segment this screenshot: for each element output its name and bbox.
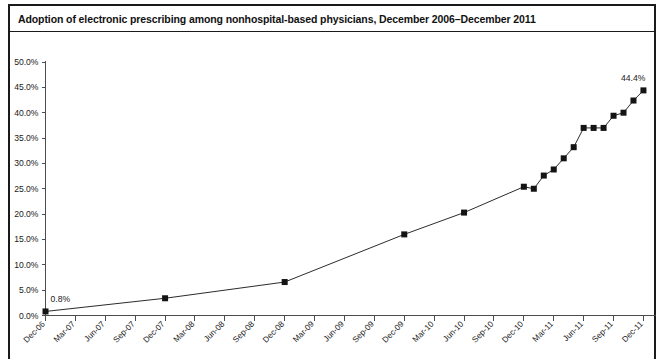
data-point-marker xyxy=(162,295,168,301)
x-axis-tick-label: Dec-11 xyxy=(620,319,645,344)
data-labels: 0.8%44.4% xyxy=(51,73,646,304)
x-axis-tick-label: Dec-10 xyxy=(500,319,525,344)
x-axis-tick-label: Mar-09 xyxy=(291,319,316,344)
data-point-marker xyxy=(611,113,617,119)
x-axis-tick-label: Sep-10 xyxy=(470,319,495,344)
data-point-marker xyxy=(43,308,49,314)
x-axis-tick-label: Jun-09 xyxy=(322,319,346,343)
x-axis-tick-label: Jun-10 xyxy=(441,319,465,343)
x-axis-tick-label: Mar-07 xyxy=(52,319,77,344)
y-axis-tick-label: 5.0% xyxy=(19,285,39,295)
y-axis-tick-label: 40.0% xyxy=(14,108,39,118)
y-axis-tick-label: 45.0% xyxy=(14,82,39,92)
x-axis-tick-label: Dec-08 xyxy=(261,319,286,344)
data-point-marker xyxy=(541,173,547,179)
data-point-marker xyxy=(551,166,557,172)
x-axis-tick-label: Sep-11 xyxy=(590,319,615,344)
x-axis-tick-label: Dec-06 xyxy=(22,319,47,344)
data-point-marker xyxy=(401,231,407,237)
x-axis-tick-label: Sep-08 xyxy=(231,319,256,344)
data-series xyxy=(43,87,647,314)
x-axis: Dec-06Mar-07Jun-07Sep-07Dec-07Mar-08Jun-… xyxy=(22,316,656,345)
y-axis: 0.0%5.0%10.0%15.0%20.0%25.0%30.0%35.0%40… xyxy=(14,57,45,321)
data-point-marker xyxy=(601,125,607,131)
data-point-marker xyxy=(531,186,537,192)
x-axis-tick-label: Jun-07 xyxy=(83,319,107,343)
line-chart-svg: 0.0%5.0%10.0%15.0%20.0%25.0%30.0%35.0%40… xyxy=(0,0,664,359)
y-axis-tick-label: 0.0% xyxy=(19,311,39,321)
data-point-marker xyxy=(461,210,467,216)
data-point-marker xyxy=(571,144,577,150)
y-axis-tick-label: 35.0% xyxy=(14,133,39,143)
data-point-marker xyxy=(581,125,587,131)
data-point-marker xyxy=(282,279,288,285)
x-axis-tick-label: Mar-10 xyxy=(411,319,436,344)
data-point-label: 0.8% xyxy=(51,294,71,304)
y-axis-tick-label: 20.0% xyxy=(14,209,39,219)
data-point-marker xyxy=(591,125,597,131)
x-axis-tick-label: Sep-07 xyxy=(112,319,137,344)
data-point-marker xyxy=(640,87,646,93)
x-axis-tick-label: Dec-07 xyxy=(141,319,166,344)
x-axis-tick-label: Dec-09 xyxy=(381,319,406,344)
data-point-label: 44.4% xyxy=(621,73,646,83)
y-axis-tick-label: 15.0% xyxy=(14,234,39,244)
data-point-marker xyxy=(521,184,527,190)
chart-figure: Adoption of electronic prescribing among… xyxy=(0,0,664,359)
x-axis-tick-label: Sep-09 xyxy=(351,319,376,344)
x-axis-tick-label: Jun-11 xyxy=(561,319,585,343)
data-point-marker xyxy=(630,98,636,104)
y-axis-tick-label: 50.0% xyxy=(14,57,39,67)
y-axis-tick-label: 30.0% xyxy=(14,158,39,168)
data-point-marker xyxy=(561,155,567,161)
y-axis-tick-label: 10.0% xyxy=(14,260,39,270)
x-axis-tick-label: Mar-11 xyxy=(531,319,556,344)
x-axis-tick-label: Jun-08 xyxy=(202,319,226,343)
x-axis-tick-label: Mar-08 xyxy=(172,319,197,344)
data-point-marker xyxy=(621,110,627,116)
y-axis-tick-label: 25.0% xyxy=(14,184,39,194)
plot-area: 0.0%5.0%10.0%15.0%20.0%25.0%30.0%35.0%40… xyxy=(0,0,664,359)
